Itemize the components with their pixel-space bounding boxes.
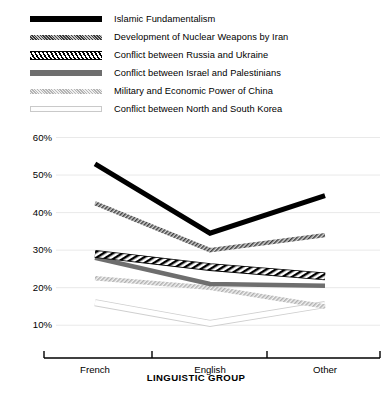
series-line [95, 164, 325, 233]
plot-area [0, 122, 392, 398]
legend-swatch-fine-hatch-light-icon [30, 89, 102, 94]
legend-item-china-power: Military and Economic Power of China [30, 82, 273, 100]
legend-label: Military and Economic Power of China [114, 86, 273, 97]
chart-legend: Islamic Fundamentalism Development of Nu… [0, 0, 392, 122]
legend-swatch-fine-hatch-dark-icon [30, 35, 102, 40]
legend-item-nuclear-weapons-iran: Development of Nuclear Weapons by Iran [30, 28, 288, 46]
legend-item-north-south-korea: Conflict between North and South Korea [30, 100, 282, 118]
legend-swatch-solid-grey-icon [30, 70, 102, 76]
series-line [95, 203, 325, 250]
legend-swatch-solid-black-icon [30, 16, 102, 22]
data-series-layer [95, 164, 325, 324]
legend-label: Conflict between North and South Korea [114, 104, 282, 115]
series-line-outline [95, 303, 325, 324]
legend-label: Development of Nuclear Weapons by Iran [114, 32, 288, 43]
y-axis-tick-label: 40% [6, 207, 52, 218]
x-axis-line [44, 351, 380, 358]
legend-label: Conflict between Russia and Ukraine [114, 50, 268, 61]
legend-item-islamic-fundamentalism: Islamic Fundamentalism [30, 10, 215, 28]
legend-swatch-outline-icon [30, 106, 102, 112]
line-chart: 10%20%30%40%50%60% FrenchEnglishOther LI… [0, 122, 392, 398]
legend-label: Conflict between Israel and Palestinians [114, 68, 281, 79]
legend-item-israel-palestinians: Conflict between Israel and Palestinians [30, 64, 281, 82]
legend-swatch-diagonal-stripe-icon [30, 51, 102, 60]
y-axis-labels: 10%20%30%40%50%60% [0, 122, 52, 398]
x-axis-title: LINGUISTIC GROUP [0, 372, 392, 383]
legend-label: Islamic Fundamentalism [114, 14, 215, 25]
y-axis-tick-label: 50% [6, 169, 52, 180]
legend-item-russia-ukraine: Conflict between Russia and Ukraine [30, 46, 268, 64]
y-axis-tick-label: 10% [6, 319, 52, 330]
y-axis-tick-label: 20% [6, 282, 52, 293]
y-axis-tick-label: 60% [6, 132, 52, 143]
y-axis-tick-label: 30% [6, 244, 52, 255]
